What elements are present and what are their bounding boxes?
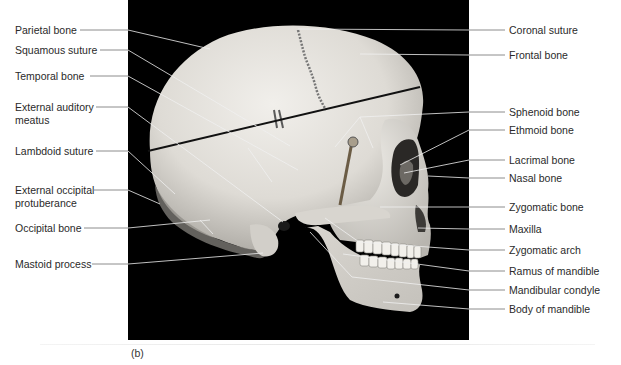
label-ethmoid-bone: Ethmoid bone [509, 124, 574, 137]
label-squamous-suture: Squamous suture [15, 44, 97, 57]
skull-lateral-view-figure: Parietal bone Squamous suture Temporal b… [0, 0, 621, 365]
label-body-of-mandible: Body of mandible [509, 303, 590, 316]
label-sphenoid-bone: Sphenoid bone [509, 106, 580, 119]
ear-canal [278, 221, 290, 231]
specimen-rod-head [348, 137, 358, 147]
label-ramus-of-mandible: Ramus of mandible [509, 265, 599, 278]
label-coronal-suture: Coronal suture [509, 24, 578, 37]
label-mandibular-condyle: Mandibular condyle [509, 284, 600, 297]
label-lambdoid-suture: Lambdoid suture [15, 145, 93, 158]
label-mastoid-process: Mastoid process [15, 258, 91, 271]
mental-foramen [395, 294, 400, 299]
label-parietal-bone: Parietal bone [15, 24, 77, 37]
label-zygomatic-arch: Zygomatic arch [509, 244, 581, 257]
label-zygomatic-bone: Zygomatic bone [509, 201, 584, 214]
caption-divider [40, 344, 595, 345]
label-external-auditory-meatus: External auditory meatus [15, 101, 100, 126]
panel-label: (b) [131, 347, 144, 359]
label-external-occipital-protuberance: External occipital protuberance [15, 184, 100, 209]
label-frontal-bone: Frontal bone [509, 49, 568, 62]
label-maxilla: Maxilla [509, 223, 542, 236]
label-occipital-bone: Occipital bone [15, 222, 82, 235]
label-nasal-bone: Nasal bone [509, 172, 562, 185]
label-lacrimal-bone: Lacrimal bone [509, 154, 575, 167]
label-temporal-bone: Temporal bone [15, 70, 84, 83]
